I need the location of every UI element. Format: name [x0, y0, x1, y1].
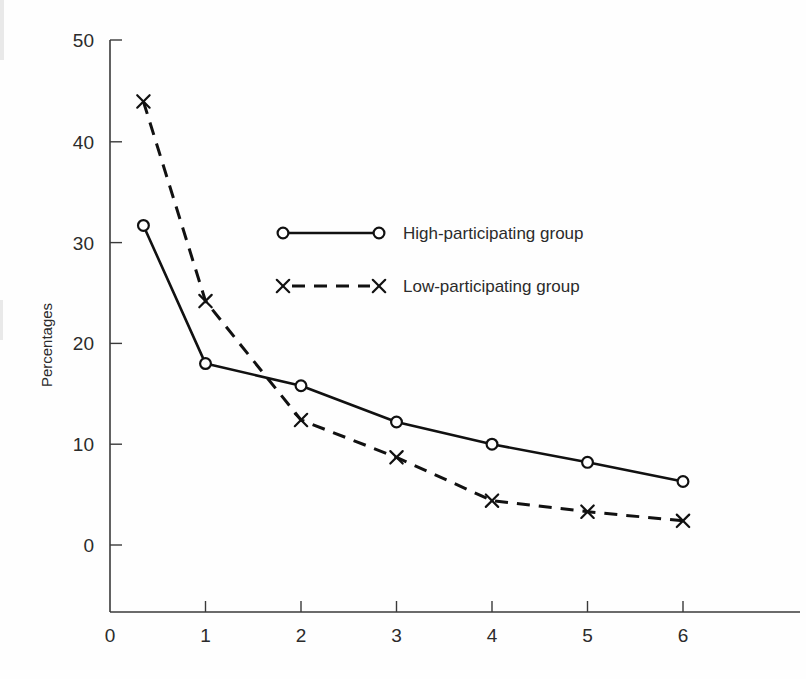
x-axis-tick-label: 5: [582, 625, 593, 646]
data-point-x-marker: [295, 414, 307, 426]
data-point-x-marker: [373, 280, 385, 292]
data-point-circle-marker: [278, 228, 289, 239]
legend-label: Low-participating group: [403, 277, 580, 296]
y-axis-tick-label: 30: [73, 233, 94, 254]
data-point-circle-marker: [374, 228, 385, 239]
data-point-circle-marker: [138, 220, 149, 231]
legend-entry[interactable]: High-participating group: [278, 224, 584, 243]
data-point-circle-marker: [487, 439, 498, 450]
x-axis-tick-label: 2: [296, 625, 307, 646]
data-point-x-marker: [390, 451, 402, 463]
series-line-high: [143, 226, 683, 482]
series-group: [137, 95, 689, 527]
data-point-circle-marker: [296, 380, 307, 391]
plot-canvas: High-participating groupLow-participatin…: [0, 0, 806, 679]
x-axis-tick-label: 4: [487, 625, 498, 646]
y-axis-title: Percentages: [38, 303, 55, 387]
x-axis-tick-label: 0: [105, 625, 116, 646]
axes-group: [110, 40, 800, 612]
data-point-circle-marker: [200, 358, 211, 369]
legend-label: High-participating group: [403, 224, 584, 243]
y-axis-tick-label: 20: [73, 333, 94, 354]
chart-figure: High-participating groupLow-participatin…: [0, 0, 806, 679]
x-axis-tick-label: 1: [200, 625, 211, 646]
y-axis-tick-label: 0: [83, 535, 94, 556]
y-axis-tick-label: 10: [73, 434, 94, 455]
data-point-x-marker: [277, 280, 289, 292]
data-point-circle-marker: [582, 457, 593, 468]
data-point-circle-marker: [391, 417, 402, 428]
legend-group: High-participating groupLow-participatin…: [277, 224, 584, 296]
data-point-circle-marker: [678, 476, 689, 487]
x-axis-tick-label: 6: [678, 625, 689, 646]
y-axis-tick-label: 50: [73, 30, 94, 51]
legend-entry[interactable]: Low-participating group: [277, 277, 580, 296]
y-axis-tick-label: 40: [73, 132, 94, 153]
labels-group: 010203040500123456Percentages: [38, 30, 688, 646]
x-axis-tick-label: 3: [391, 625, 402, 646]
series-line-low: [143, 102, 683, 521]
